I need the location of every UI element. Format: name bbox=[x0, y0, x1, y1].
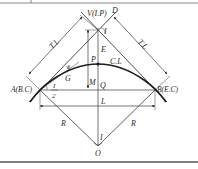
label-external: E bbox=[100, 45, 106, 54]
label-m: M bbox=[88, 78, 97, 87]
label-center: O bbox=[95, 149, 101, 158]
label-long-chord: L bbox=[100, 97, 106, 106]
label-radius-right: R bbox=[130, 119, 136, 128]
radius-right bbox=[98, 90, 155, 146]
label-bc: A(B.C) bbox=[10, 85, 33, 94]
label-half-angle-den: 2 bbox=[52, 92, 56, 100]
label-p: P bbox=[90, 55, 96, 64]
label-d: D bbox=[111, 6, 118, 15]
label-g: G bbox=[65, 74, 71, 83]
label-tl-left: T.L bbox=[47, 37, 61, 51]
label-delta: δ bbox=[67, 64, 70, 70]
angle-arc-a bbox=[46, 85, 47, 90]
label-q: Q bbox=[100, 81, 106, 90]
point-p bbox=[96, 62, 99, 65]
label-vertex: V(I.P) bbox=[87, 9, 107, 18]
radius-left bbox=[40, 90, 98, 146]
label-intersection-angle: I bbox=[103, 27, 107, 36]
label-tl-right: T.L bbox=[136, 37, 150, 51]
label-curve-length: C.L bbox=[110, 57, 122, 66]
label-half-angle-num: I bbox=[52, 82, 56, 90]
label-center-angle: I bbox=[99, 133, 103, 142]
label-radius-left: R bbox=[60, 119, 66, 128]
circular-curve-diagram: V(I.P) D I T.L T.L E P C.L δ G M Q A(B.C… bbox=[0, 0, 198, 169]
label-ec: B(E.C) bbox=[157, 85, 179, 94]
